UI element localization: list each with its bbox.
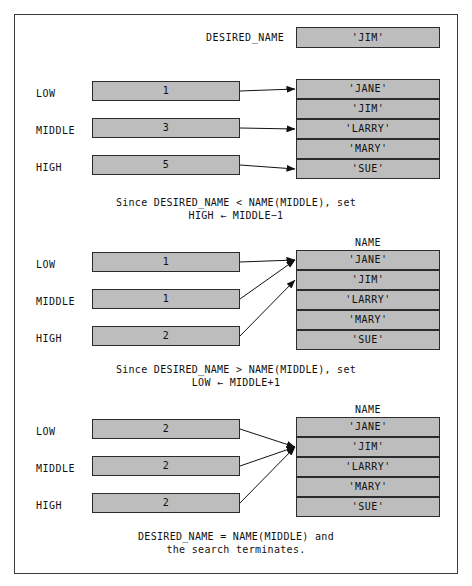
panel-1-var-label-middle: MIDDLE	[36, 126, 75, 136]
panel-2-name-cell-2: 'JIM'	[296, 270, 440, 290]
panel-2-var-label-low: LOW	[36, 260, 56, 270]
panel-2-name-table-header: NAME	[296, 238, 440, 248]
panel-3-name-cell-2: 'JIM'	[296, 437, 440, 457]
panel-2-name-cell-3: 'LARRY'	[296, 290, 440, 310]
panel-3-var-box-low: 2	[92, 419, 240, 439]
panel-3-name-cell-5: 'SUE'	[296, 497, 440, 517]
panel-3-caption-line-1: DESIRED_NAME = NAME(MIDDLE) and	[0, 530, 472, 543]
panel-3-name-cell-4: 'MARY'	[296, 477, 440, 497]
panel-2-name-cell-1: 'JANE'	[296, 250, 440, 270]
panel-1-var-box-high: 5	[92, 155, 240, 175]
binary-search-figure: DESIRED_NAME 'JIM' LOW 1 MIDDLE 3 HIGH 5…	[0, 0, 472, 586]
panel-3-var-box-high: 2	[92, 493, 240, 513]
panel-1-caption-line-2: HIGH ← MIDDLE−1	[0, 209, 472, 222]
panel-3-name-cell-1: 'JANE'	[296, 417, 440, 437]
panel-2-name-cell-4: 'MARY'	[296, 310, 440, 330]
panel-2-var-label-high: HIGH	[36, 334, 62, 344]
panel-3-var-label-low: LOW	[36, 427, 56, 437]
panel-2-var-box-low: 1	[92, 252, 240, 272]
panel-1-name-cell-4: 'MARY'	[296, 139, 440, 159]
panel-2-caption-line-2: LOW ← MIDDLE+1	[0, 376, 472, 389]
panel-1-var-label-low: LOW	[36, 89, 56, 99]
panel-1-name-cell-5: 'SUE'	[296, 159, 440, 179]
panel-3-caption-line-2: the search terminates.	[0, 543, 472, 556]
desired-name-value-box: 'JIM'	[296, 27, 440, 48]
panel-3-name-table-header: NAME	[296, 405, 440, 415]
panel-2-name-cell-5: 'SUE'	[296, 330, 440, 350]
panel-1-name-cell-3: 'LARRY'	[296, 119, 440, 139]
panel-1-var-box-middle: 3	[92, 118, 240, 138]
panel-2-caption-line-1: Since DESIRED_NAME > NAME(MIDDLE), set	[0, 363, 472, 376]
panel-2-var-box-high: 2	[92, 326, 240, 346]
panel-3-var-box-middle: 2	[92, 456, 240, 476]
panel-3-var-label-high: HIGH	[36, 501, 62, 511]
panel-2-var-label-middle: MIDDLE	[36, 297, 75, 307]
panel-1-var-label-high: HIGH	[36, 163, 62, 173]
panel-3-name-cell-3: 'LARRY'	[296, 457, 440, 477]
panel-3-var-label-middle: MIDDLE	[36, 464, 75, 474]
panel-2-var-box-middle: 1	[92, 289, 240, 309]
panel-1-var-box-low: 1	[92, 81, 240, 101]
panel-1-name-cell-2: 'JIM'	[296, 99, 440, 119]
panel-1-caption-line-1: Since DESIRED_NAME < NAME(MIDDLE), set	[0, 196, 472, 209]
desired-name-label: DESIRED_NAME	[206, 33, 284, 43]
panel-1-name-cell-1: 'JANE'	[296, 79, 440, 99]
